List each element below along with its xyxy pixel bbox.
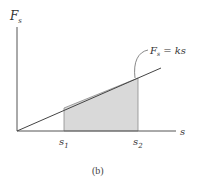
tick-label-s1: s1 [59,136,69,150]
force-displacement-diagram: Fs Fs = ks s s1 s2 (b) [0,0,197,187]
x-axis-label: s [180,126,185,137]
work-area-shaded [64,78,138,131]
figure-caption: (b) [92,165,104,177]
y-axis-label: Fs [9,9,22,25]
line-equation-label: Fs = ks [149,45,186,57]
label-leader [135,50,148,78]
tick-label-s2: s2 [133,136,143,150]
